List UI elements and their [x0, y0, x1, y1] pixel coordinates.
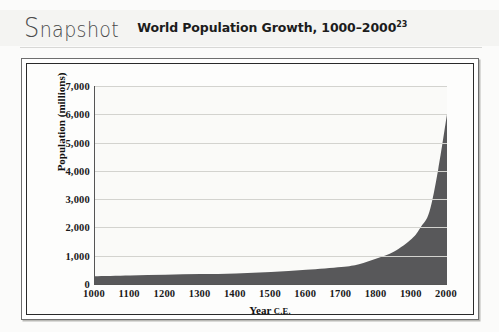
gridline [95, 86, 447, 87]
snapshot-wordmark-capital: S [24, 13, 40, 43]
y-axis-tick-labels: 01,0002,0003,0004,0005,0006,0007,000 [31, 86, 90, 284]
header-divider [20, 47, 482, 48]
population-area-chart [95, 86, 447, 284]
x-axis-tick-labels: 1000110012001300140015001600170018001900… [94, 288, 446, 304]
page-title: World Population Growth, 1000–200023 [137, 20, 407, 35]
plot-area [94, 86, 447, 285]
chart-frame-outer: Population (millions) 01,0002,0003,0004,… [21, 58, 479, 320]
x-axis-title-main: Year [249, 304, 271, 316]
snapshot-header: Snapshot World Population Growth, 1000–2… [0, 10, 499, 46]
gridline [95, 199, 447, 200]
chart-plot-wrapper: Population (millions) 01,0002,0003,0004,… [27, 64, 473, 314]
x-axis-tick-label: 2000 [416, 288, 476, 299]
page-title-text: World Population Growth, 1000–2000 [137, 21, 396, 36]
y-axis-tick-label: 4,000 [34, 165, 90, 176]
x-axis-title-era: C.E. [274, 306, 291, 316]
y-axis-tick-label: 3,000 [34, 194, 90, 205]
x-axis-title: Year C.E. [94, 304, 446, 316]
snapshot-wordmark-rest: napshot [40, 17, 120, 41]
snapshot-figure-page: Snapshot World Population Growth, 1000–2… [0, 0, 499, 332]
gridline [95, 143, 447, 144]
gridline [95, 256, 447, 257]
gridline [95, 227, 447, 228]
y-axis-tick-label: 7,000 [34, 81, 90, 92]
gridline [95, 171, 447, 172]
y-axis-tick-label: 2,000 [34, 222, 90, 233]
snapshot-wordmark: Snapshot [24, 15, 119, 41]
y-axis-tick-label: 1,000 [34, 250, 90, 261]
page-title-footnote-marker: 23 [396, 20, 407, 29]
chart-frame-inner: Population (millions) 01,0002,0003,0004,… [26, 63, 474, 315]
y-axis-tick-label: 5,000 [34, 137, 90, 148]
y-axis-tick-label: 6,000 [34, 109, 90, 120]
gridline [95, 114, 447, 115]
